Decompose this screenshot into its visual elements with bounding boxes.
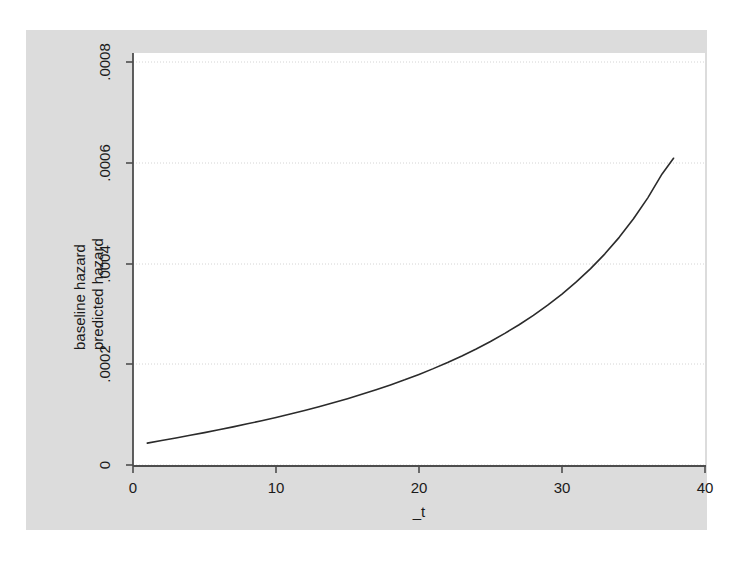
plot-area <box>133 53 705 465</box>
x-tick-marks <box>133 466 705 473</box>
x-tick-label-10: 10 <box>268 480 285 495</box>
y-axis-title-line-2: predicted hazard <box>90 238 105 350</box>
y-tick-label-0006: .0006 <box>97 144 112 182</box>
x-tick-label-40: 40 <box>697 480 714 495</box>
x-tick-label-20: 20 <box>411 480 428 495</box>
chart-figure: .0008 .0006 .0004 .0002 0 0 10 20 30 40 … <box>0 0 733 561</box>
y-tick-label-0: 0 <box>97 461 112 469</box>
y-axis-title-line-1: baseline hazard <box>72 244 87 350</box>
y-tick-label-0008: .0008 <box>97 43 112 81</box>
y-tick-label-0002: .0002 <box>97 345 112 383</box>
x-axis-title: _t <box>413 504 426 519</box>
x-tick-label-30: 30 <box>554 480 571 495</box>
x-tick-label-0: 0 <box>129 480 137 495</box>
y-tick-marks <box>126 62 133 465</box>
